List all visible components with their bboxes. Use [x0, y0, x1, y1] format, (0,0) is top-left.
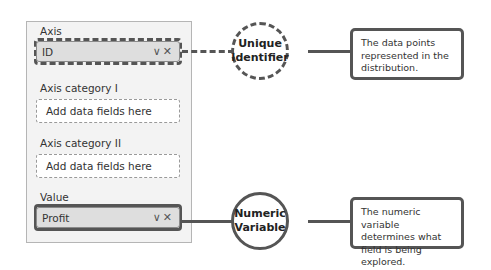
connector-solid — [182, 220, 234, 223]
axis-category-1-label: Axis category I — [40, 82, 118, 94]
connector-solid — [308, 50, 350, 53]
connector-dashed — [182, 50, 234, 53]
value-field-value: Profit — [42, 212, 153, 224]
dropzone-placeholder: Add data fields here — [46, 105, 174, 117]
circle-title-1: Unique — [238, 37, 282, 50]
value-label: Value — [40, 191, 69, 203]
value-field[interactable]: Profit ∨✕ — [36, 207, 180, 228]
numeric-variable-note: The numeric variable determines what fie… — [350, 197, 464, 249]
circle-title-2: Variable — [234, 221, 285, 234]
chevron-down-close-icon[interactable]: ∨✕ — [153, 211, 174, 224]
axis-category-1-dropzone[interactable]: Add data fields here — [36, 99, 180, 123]
circle-title-1: Numeric — [234, 207, 286, 220]
axis-label: Axis — [40, 25, 62, 37]
axis-category-2-dropzone[interactable]: Add data fields here — [36, 154, 180, 178]
numeric-variable-circle: NumericVariable — [231, 192, 289, 250]
connector-solid — [308, 220, 350, 223]
field-config-panel: Axis ID ∨✕ Axis category I Add data fiel… — [26, 21, 192, 243]
axis-field-value: ID — [42, 46, 153, 58]
unique-identifier-circle: UniqueIdentifier — [231, 22, 289, 80]
chevron-down-close-icon[interactable]: ∨✕ — [153, 45, 174, 58]
dropzone-placeholder: Add data fields here — [46, 160, 174, 172]
circle-title-2: Identifier — [231, 51, 288, 64]
axis-field[interactable]: ID ∨✕ — [36, 41, 180, 62]
axis-category-2-label: Axis category II — [40, 137, 121, 149]
unique-identifier-note: The data points represented in the distr… — [350, 28, 464, 80]
